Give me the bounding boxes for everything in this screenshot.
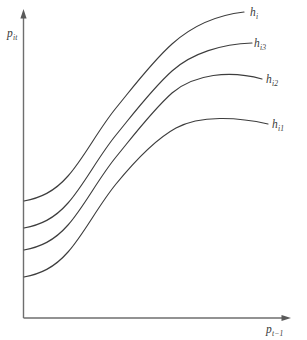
x-axis-label: pt−1 [266, 324, 283, 336]
curve-label-h-i3-subscript: i3 [260, 43, 266, 52]
curve-label-h-i: hi [250, 7, 258, 19]
curve-h-i3 [24, 43, 252, 228]
axes-group [20, 9, 291, 321]
curve-label-h-i1: hi1 [272, 119, 284, 131]
curve-label-h-i2-subscript: i2 [272, 79, 278, 88]
figure-container: pit pt−1 hi hi3 hi2 hi1 [0, 0, 307, 340]
curve-label-h-i-subscript: i [256, 12, 258, 21]
y-axis-arrowhead [20, 9, 26, 19]
curve-h-i1 [24, 118, 268, 277]
curve-label-h-i2: hi2 [266, 74, 278, 86]
curves-group [24, 12, 268, 277]
y-axis-label-subscript: it [13, 33, 17, 42]
curve-h-i [24, 12, 244, 201]
curve-h-i2 [24, 74, 262, 250]
y-axis-label: pit [7, 28, 17, 40]
curve-label-h-i1-subscript: i1 [278, 124, 284, 133]
curve-label-h-i3: hi3 [254, 38, 266, 50]
x-axis-label-subscript: t−1 [272, 329, 283, 338]
x-axis-arrowhead [282, 315, 292, 321]
